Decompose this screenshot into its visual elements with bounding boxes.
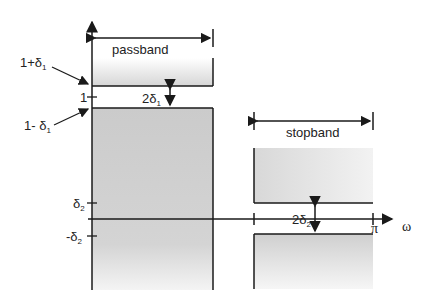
one-minus-delta1-label: 1- δ1: [24, 118, 51, 135]
two-delta2-label: 2δ2: [292, 212, 311, 229]
omega-label: ω: [402, 219, 411, 234]
passband-label: passband: [112, 42, 168, 57]
minus-delta2-label: -δ2: [66, 229, 83, 246]
filter-spec-diagram: passband stopband 1+δ1 1 1- δ1 2δ1 δ2 -δ…: [0, 0, 432, 308]
stopband-lower-region: [254, 234, 373, 289]
pointer-one-plus-delta1: [52, 67, 88, 84]
passband-upper-region: [92, 58, 213, 86]
passband-region: [92, 108, 213, 290]
pointer-one-minus-delta1: [54, 109, 88, 125]
one-label: 1: [80, 90, 87, 105]
delta2-label: δ2: [73, 196, 85, 213]
one-plus-delta1-label: 1+δ1: [20, 55, 47, 72]
stopband-upper-region: [254, 148, 373, 203]
pi-label: π: [371, 221, 378, 236]
stopband-label: stopband: [286, 125, 340, 140]
two-delta1-label: 2δ1: [142, 91, 161, 108]
